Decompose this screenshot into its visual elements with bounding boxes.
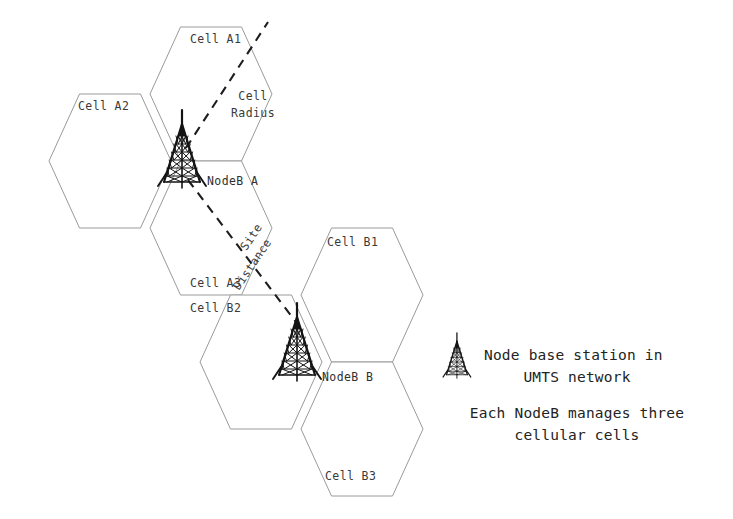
cell-label-a1: Cell A1: [190, 32, 241, 46]
legend: Node base station in UMTS network Each N…: [443, 333, 684, 443]
diagram-canvas: Cell A1 Cell A2 Cell A3 Cell B1 Cell B2 …: [0, 0, 733, 519]
legend-nodeb-manages-line1: Each NodeB manages three: [470, 405, 684, 421]
hex-cell-b2[interactable]: [200, 295, 322, 429]
legend-node-base-station-line1: Node base station in: [484, 347, 663, 363]
cell-label-b3: Cell B3: [325, 469, 376, 483]
cell-label-b1: Cell B1: [327, 235, 378, 249]
hex-cell-a2[interactable]: [49, 94, 171, 228]
legend-tower-icon: [443, 333, 471, 378]
cell-label-b2: Cell B2: [190, 301, 241, 315]
cell-radius-label-line2: Radius: [231, 106, 275, 120]
cell-radius-label-line1: Cell: [238, 89, 267, 103]
nodeb-a-label: NodeB A: [207, 174, 258, 188]
legend-nodeb-manages-line2: cellular cells: [514, 427, 639, 443]
cellular-network-diagram: Cell A1 Cell A2 Cell A3 Cell B1 Cell B2 …: [0, 0, 733, 519]
cell-label-a2: Cell A2: [78, 99, 129, 113]
nodeb-b-label: NodeB B: [322, 370, 373, 384]
hex-grid: [49, 27, 423, 496]
legend-node-base-station-line2: UMTS network: [523, 369, 630, 385]
